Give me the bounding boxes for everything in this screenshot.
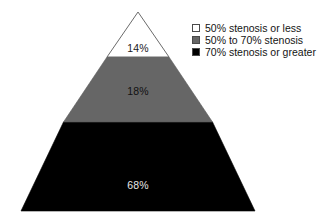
segment-value-label-bottom: 68% <box>127 179 149 191</box>
legend-swatch-white-icon <box>192 24 200 32</box>
pyramid-segment-bottom <box>21 122 255 211</box>
legend-label-white: 50% stenosis or less <box>205 22 301 34</box>
pyramid-chart-figure: 14% 18% 68% 50% stenosis or less 50% to … <box>0 0 334 220</box>
chart-legend: 50% stenosis or less 50% to 70% stenosis… <box>192 22 334 58</box>
legend-label-gray: 50% to 70% stenosis <box>205 34 303 46</box>
segment-value-label-top: 14% <box>127 42 149 54</box>
legend-item-gray: 50% to 70% stenosis <box>192 34 334 46</box>
legend-item-white: 50% stenosis or less <box>192 22 334 34</box>
legend-item-black: 70% stenosis or greater <box>192 46 334 58</box>
segment-value-label-middle: 18% <box>127 85 149 97</box>
legend-swatch-black-icon <box>192 48 200 56</box>
legend-swatch-gray-icon <box>192 36 200 44</box>
legend-label-black: 70% stenosis or greater <box>205 46 316 58</box>
